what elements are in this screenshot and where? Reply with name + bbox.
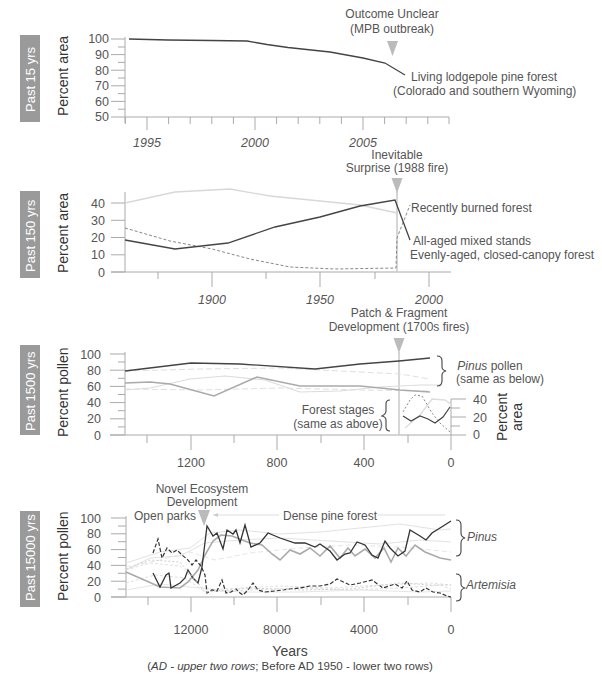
y-tick-label: 80: [87, 527, 101, 541]
inset-y-tick-label: 20: [473, 411, 487, 425]
y-tick-label: 20: [91, 231, 105, 245]
panel-past-150-yrs: Past 150 yrs Percent area 40 30 20 10 0: [20, 148, 595, 307]
pollen-label: pollen: [487, 359, 522, 373]
x-tick-label: 4000: [350, 623, 378, 637]
y-tick-label: 20: [87, 412, 101, 426]
x-tick-label: 1200: [177, 456, 205, 470]
series-label: All-aged mixed stands: [413, 234, 531, 248]
series-pinus-light-dashed: [125, 368, 430, 379]
annotation-title: Outcome Unclear: [345, 7, 438, 21]
series-pinus-medium: [126, 535, 451, 588]
annotation-title: Inevitable: [371, 148, 423, 162]
inset-y-tick-label: 40: [473, 393, 487, 407]
x-tick-label: 0: [448, 456, 455, 470]
event-marker-icon: [387, 41, 398, 56]
y-tick-label: 80: [87, 364, 101, 378]
y-axis-label: Percent pollen: [55, 511, 71, 601]
annotation-subtitle: Development: [167, 495, 238, 509]
series-label: Evenly-aged, closed-canopy forest: [410, 248, 595, 262]
x-tick-label: 0: [448, 623, 455, 637]
inset-y-tick-label: 0: [473, 428, 480, 442]
panel-past-15-yrs: Past 15 yrs Percent area 100 90 80 70 60…: [20, 7, 576, 150]
series-label: Living lodgepole pine forest: [411, 70, 558, 84]
annotation-subtitle: Development (1700s fires): [329, 320, 470, 334]
y-ticks: [111, 39, 125, 117]
series-all-aged-mixed: [125, 200, 410, 249]
x-tick-label: 1995: [133, 136, 161, 150]
panel-past-15000-yrs: Past 15000 yrs Percent pollen 100 80 60 …: [20, 482, 516, 637]
annotation-title: Novel Ecosystem: [156, 482, 249, 496]
y-tick-label: 40: [87, 396, 101, 410]
phase-label-dense-pine: Dense pine forest: [283, 509, 378, 523]
series-living-lodgepole: [129, 39, 405, 75]
x-tick-label: 800: [267, 456, 288, 470]
inset-y-ticks: [451, 399, 466, 426]
y-tick-label: 10: [91, 248, 105, 262]
inset-series-recently-burned: [403, 395, 450, 432]
x-tick-label: 12000: [174, 623, 209, 637]
inset-y-axis-label: area: [509, 403, 525, 431]
annotation-title: Patch & Fragment: [351, 306, 448, 320]
x-axis-note: (AD - upper two rows; Before AD 1950 - l…: [147, 660, 433, 672]
inset-y-axis-label: Percent: [494, 393, 510, 441]
event-marker-icon: [392, 178, 403, 193]
note-before-ad: ; Before AD 1950 - lower two rows): [255, 660, 433, 672]
brace-icon: [456, 574, 465, 601]
arrow-left-icon: [213, 513, 218, 517]
x-axis-title: Years: [272, 643, 307, 659]
y-ticks: [111, 518, 126, 597]
annotation-subtitle: Surprise (1988 fire): [346, 161, 449, 175]
x-tick-label: 400: [354, 456, 375, 470]
y-tick-label: 100: [80, 512, 101, 526]
y-tick-label: 90: [95, 48, 109, 62]
event-marker-icon: [198, 510, 210, 526]
y-axis-label: Percent area: [55, 36, 71, 116]
y-tick-label: 100: [80, 348, 101, 362]
y-tick-label: 80: [95, 64, 109, 78]
brace-icon: [437, 356, 446, 386]
series-recently-burned: [125, 205, 410, 269]
y-ticks: [111, 203, 125, 272]
pinus-label: Pinus: [457, 359, 487, 373]
brace-icon: [382, 400, 390, 431]
row-tag-label: Past 150 yrs: [23, 199, 38, 272]
note-ad-upper: AD - upper two rows: [150, 660, 255, 672]
y-tick-label: 100: [88, 32, 109, 46]
pinus-pollen-label: Pinus pollen: [457, 359, 522, 373]
series-evenly-aged: [125, 189, 397, 213]
y-tick-label: 60: [87, 543, 101, 557]
x-tick-label: 2000: [240, 136, 269, 150]
pinus-label: Pinus: [467, 530, 497, 544]
background-series: [126, 524, 451, 592]
event-marker-icon: [394, 338, 405, 353]
forest-stages-note: (same as above): [293, 417, 382, 431]
row-tag-label: Past 1500 yrs: [23, 351, 38, 431]
row-tag-label: Past 15 yrs: [23, 46, 38, 112]
x-ticks: [125, 117, 449, 130]
figure: Past 15 yrs Percent area 100 90 80 70 60…: [0, 0, 602, 688]
y-axis-label: Percent area: [55, 193, 71, 273]
x-tick-label: 1900: [198, 293, 226, 307]
y-ticks: [110, 354, 125, 435]
series-pinus-dark: [125, 358, 430, 371]
x-ticks: [158, 272, 429, 287]
y-tick-label: 60: [95, 95, 109, 109]
series-label: Recently burned forest: [411, 201, 532, 215]
y-tick-label: 50: [95, 110, 109, 124]
brace-icon: [456, 520, 465, 556]
panel-past-1500-yrs: Past 1500 yrs Percent pollen 100 80 60 4…: [20, 306, 544, 470]
y-axis-label: Percent pollen: [55, 347, 71, 437]
y-tick-label: 0: [94, 429, 101, 443]
y-tick-label: 30: [91, 214, 105, 228]
series-label: (Colorado and southern Wyoming): [393, 84, 576, 98]
y-tick-label: 0: [94, 591, 101, 605]
y-tick-label: 40: [87, 559, 101, 573]
artemisia-label: Artemisia: [465, 578, 516, 592]
annotation-subtitle: (MPB outbreak): [350, 22, 434, 36]
y-tick-label: 20: [87, 575, 101, 589]
x-tick-label: 8000: [263, 623, 291, 637]
y-tick-label: 0: [98, 266, 105, 280]
x-ticks: [147, 435, 451, 450]
inset-series-all-aged: [403, 407, 450, 423]
x-ticks: [148, 597, 451, 612]
